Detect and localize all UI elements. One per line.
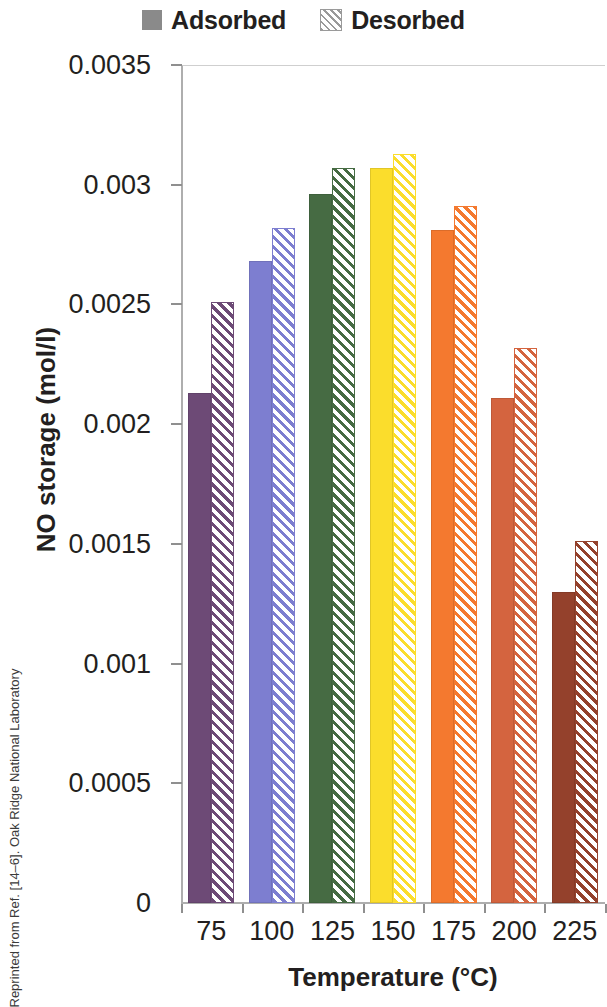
bar-desorbed-225 [575,541,598,903]
bar-adsorbed-100 [249,261,272,903]
x-axis-tick-mark [302,904,304,913]
bar-adsorbed-125 [309,194,332,903]
legend-entry-desorbed: Desorbed [320,6,465,35]
x-axis-tick-mark [181,904,183,913]
y-axis-tick-label: 0 [136,888,151,919]
bar-desorbed-125 [332,168,355,903]
y-axis-title: NO storage (mol/l) [31,290,62,590]
bar-adsorbed-75 [188,393,211,903]
attribution-text: Reprinted from Ref. [14–6]. Oak Ridge Na… [7,488,22,1007]
hatched-square-icon [320,9,342,31]
bar-desorbed-75 [211,302,234,903]
legend-label-adsorbed: Adsorbed [171,6,286,35]
y-axis-tick-label: 0.0025 [68,289,151,320]
x-axis-tick-mark [363,904,365,913]
bar-adsorbed-200 [491,398,514,903]
y-axis-tick-label: 0.0015 [68,528,151,559]
bar-adsorbed-150 [370,168,393,903]
x-axis-tick-mark [484,904,486,913]
x-axis-tick-mark [423,904,425,913]
y-axis-tick-label: 0.003 [83,169,151,200]
bar-adsorbed-175 [431,230,454,903]
y-axis-tick-label: 0.001 [83,648,151,679]
bar-desorbed-100 [272,228,295,903]
x-axis-tick-label: 200 [492,916,537,947]
x-axis-tick-label: 225 [552,916,597,947]
y-axis-tick-labels: 00.00050.0010.00150.0020.00250.0030.0035 [0,0,165,1007]
bar-desorbed-150 [393,154,416,903]
bar-desorbed-200 [514,348,537,903]
x-axis-tick-marks [181,904,605,913]
x-axis-tick-mark [242,904,244,913]
x-axis-tick-labels: 75100125150175200225 [181,916,605,956]
x-axis-tick-label: 175 [431,916,476,947]
x-axis-tick-label: 100 [249,916,294,947]
y-axis-tick-label: 0.0005 [68,768,151,799]
x-axis-title: Temperature (°C) [181,962,605,993]
legend-label-desorbed: Desorbed [351,6,465,35]
y-axis-tick-label: 0.0035 [68,50,151,81]
x-axis-tick-mark [544,904,546,913]
bar-series-layer [181,65,605,903]
bar-adsorbed-225 [552,592,575,903]
y-axis-tick-label: 0.002 [83,409,151,440]
x-axis-tick-label: 150 [370,916,415,947]
x-axis-tick-label: 75 [196,916,226,947]
x-axis-tick-label: 125 [310,916,355,947]
bar-desorbed-175 [454,206,477,903]
